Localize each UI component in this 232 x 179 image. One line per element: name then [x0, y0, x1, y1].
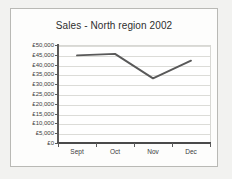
- chart-frame: Sales - North region 2002 £0£5,000£10,00…: [10, 8, 218, 167]
- y-tick-label: £10,000: [32, 120, 54, 126]
- y-tick-mark: [55, 65, 59, 66]
- x-tick-mark: [172, 143, 173, 147]
- y-tick-mark: [55, 114, 59, 115]
- y-tick-mark: [55, 123, 59, 124]
- x-tick-label-sept: Sept: [70, 149, 83, 156]
- x-tick-mark: [96, 143, 97, 147]
- y-tick-label: £25,000: [32, 91, 54, 97]
- y-tick-label: £0: [47, 140, 54, 146]
- x-tick-mark: [58, 143, 59, 147]
- y-tick-mark: [55, 74, 59, 75]
- y-tick-mark: [55, 94, 59, 95]
- x-tick-label-nov: Nov: [147, 149, 159, 156]
- y-tick-mark: [55, 55, 59, 56]
- y-tick-label: £30,000: [32, 81, 54, 87]
- y-tick-mark: [55, 133, 59, 134]
- y-tick-mark: [55, 84, 59, 85]
- y-tick-label: £15,000: [32, 111, 54, 117]
- y-tick-label: £20,000: [32, 101, 54, 107]
- series-line-chart: [58, 46, 210, 144]
- y-tick-label: £45,000: [32, 52, 54, 58]
- y-tick-label: £40,000: [32, 62, 54, 68]
- x-tick-label-dec: Dec: [185, 149, 197, 156]
- x-tick-mark: [210, 143, 211, 147]
- y-tick-label: £35,000: [32, 71, 54, 77]
- series-sales-line: [77, 54, 191, 78]
- y-tick-mark: [55, 104, 59, 105]
- y-tick-label: £5,000: [36, 130, 54, 136]
- plot-area: [58, 45, 211, 144]
- y-tick-mark: [55, 45, 59, 46]
- chart-title: Sales - North region 2002: [11, 20, 217, 31]
- x-tick-mark: [134, 143, 135, 147]
- x-tick-label-oct: Oct: [110, 149, 120, 156]
- y-tick-label: £50,000: [32, 42, 54, 48]
